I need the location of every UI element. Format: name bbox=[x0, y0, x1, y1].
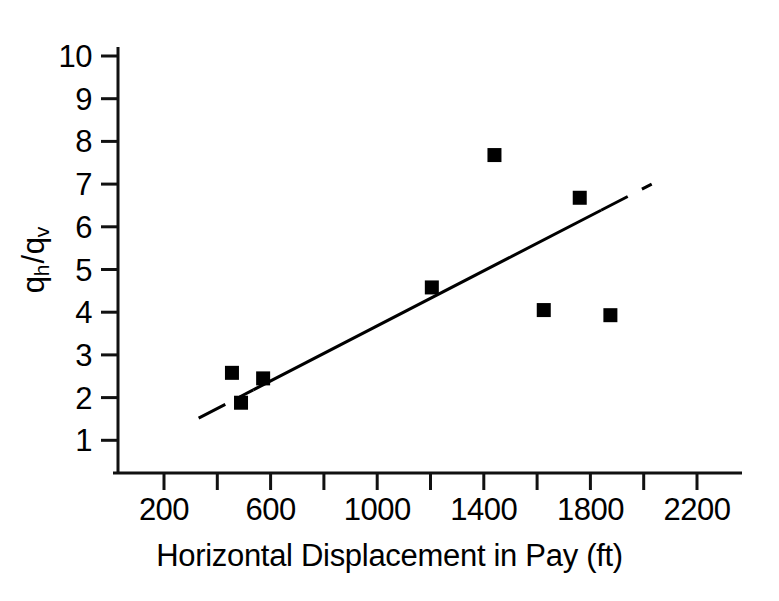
y-axis-title-q1: q bbox=[16, 276, 51, 293]
chart-page: 12345678910 2006001000140018002200 qh/qv… bbox=[0, 0, 779, 601]
data-point-marker bbox=[487, 148, 501, 162]
x-axis-ticks bbox=[164, 472, 697, 490]
data-point-marker bbox=[225, 366, 239, 380]
x-axis-tick-label: 1000 bbox=[344, 494, 411, 525]
y-axis-title: qh/qv bbox=[6, 150, 62, 370]
data-point-marker bbox=[256, 371, 270, 385]
y-axis-tick-label: 10 bbox=[40, 41, 92, 72]
x-axis-tick-label: 1800 bbox=[557, 494, 624, 525]
y-axis-tick-label: 9 bbox=[40, 83, 92, 114]
x-axis-tick-label: 600 bbox=[245, 494, 295, 525]
y-axis-tick-label: 2 bbox=[40, 382, 92, 413]
data-point-marker bbox=[537, 303, 551, 317]
data-points bbox=[225, 148, 617, 410]
y-axis-title-q2: q bbox=[16, 237, 51, 254]
y-axis-title-slash: / bbox=[16, 254, 51, 264]
trendline-solid-segment bbox=[253, 210, 601, 390]
x-axis-tick-label: 2200 bbox=[664, 494, 731, 525]
trendline-dashed-segment bbox=[601, 184, 652, 210]
data-point-marker bbox=[425, 280, 439, 294]
x-axis-tick-label: 200 bbox=[139, 494, 189, 525]
data-point-marker bbox=[603, 308, 617, 322]
data-point-marker bbox=[573, 191, 587, 205]
x-axis-tick-label: 1400 bbox=[450, 494, 517, 525]
data-point-marker bbox=[234, 396, 248, 410]
y-axis-title-text: qh/qv bbox=[16, 227, 52, 293]
y-axis-ticks bbox=[101, 56, 119, 440]
y-axis-title-sub1: h bbox=[30, 265, 53, 277]
y-axis-tick-label: 1 bbox=[40, 425, 92, 456]
plot-area: 12345678910 2006001000140018002200 qh/qv… bbox=[0, 0, 779, 601]
y-axis-title-sub2: v bbox=[30, 227, 53, 238]
x-axis-title: Horizontal Displacement in Pay (ft) bbox=[0, 538, 779, 574]
